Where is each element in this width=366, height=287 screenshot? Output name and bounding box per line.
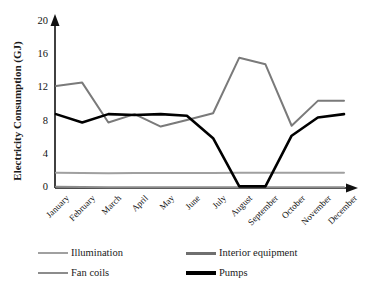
series-line-pumps [56, 114, 344, 186]
legend-item-illumination[interactable]: Illumination [38, 248, 123, 259]
y-tick-label: 8 [26, 115, 48, 126]
legend-label-interior-equipment: Interior equipment [219, 248, 297, 259]
x-axis-arrow-icon [346, 184, 358, 193]
y-tick-label: 0 [26, 181, 48, 192]
legend-swatch-fan-coils [38, 272, 68, 274]
y-tick-label: 12 [26, 81, 48, 92]
legend-item-pumps[interactable]: Pumps [186, 268, 248, 279]
legend-swatch-interior-equipment [186, 252, 216, 255]
legend-label-pumps: Pumps [219, 268, 248, 279]
y-tick-label: 4 [26, 148, 48, 159]
y-tick-label: 16 [26, 48, 48, 59]
chart-legend: Illumination Interior equipment Fan coil… [38, 246, 358, 284]
line-chart: Electricity Consumption (GJ) 048121620 J… [0, 0, 366, 287]
legend-item-fan-coils[interactable]: Fan coils [38, 268, 109, 279]
data-series-layer [56, 58, 344, 187]
legend-swatch-pumps [186, 271, 216, 275]
legend-swatch-illumination [38, 252, 68, 254]
y-axis-title: Electricity Consumption (GJ) [11, 31, 23, 191]
legend-item-interior-equipment[interactable]: Interior equipment [186, 248, 297, 259]
series-line-illumination [56, 173, 344, 174]
legend-label-illumination: Illumination [71, 248, 123, 259]
y-axis-arrow-icon [51, 14, 60, 26]
y-tick-label: 20 [26, 15, 48, 26]
legend-label-fan-coils: Fan coils [71, 268, 109, 279]
